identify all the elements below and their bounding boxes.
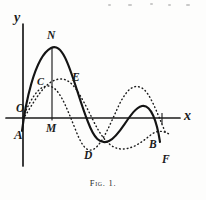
- axis-labels-group: y x: [12, 10, 191, 123]
- point-label-E: E: [71, 71, 80, 83]
- figure-caption: Fig. 1.: [0, 178, 206, 188]
- point-label-A: A: [13, 127, 23, 142]
- point-label-F: F: [161, 153, 170, 165]
- scan-speck: [128, 4, 132, 6]
- point-labels-group: O A C N M E D B F: [13, 29, 170, 165]
- scan-speck: [168, 4, 171, 6]
- point-label-D: D: [83, 149, 93, 161]
- scan-speck: [186, 4, 190, 6]
- point-label-O: O: [16, 102, 24, 114]
- x-axis-label: x: [183, 108, 191, 123]
- point-label-M: M: [45, 122, 57, 134]
- figure-canvas: O A C N M E D B F y x Fig. 1.: [0, 0, 206, 200]
- point-label-B: B: [148, 138, 157, 150]
- figure-diagram: O A C N M E D B F y x: [0, 0, 206, 200]
- scan-speck: [150, 3, 153, 5]
- scan-speck: [108, 4, 111, 6]
- point-label-C: C: [37, 76, 45, 87]
- point-label-N: N: [46, 29, 56, 41]
- solid-curve-path: [22, 47, 160, 142]
- y-axis-label: y: [12, 10, 21, 25]
